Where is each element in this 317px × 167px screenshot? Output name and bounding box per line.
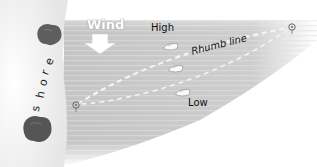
low-label: Low	[188, 97, 208, 108]
shore	[0, 0, 68, 167]
wind-label: Wind	[87, 17, 124, 32]
tree-icon	[23, 116, 51, 142]
tree-icon	[37, 24, 61, 45]
sailing-course-diagram: Wind High Rhumb line Low s h o r e	[0, 0, 317, 167]
high-label: High	[151, 22, 174, 33]
